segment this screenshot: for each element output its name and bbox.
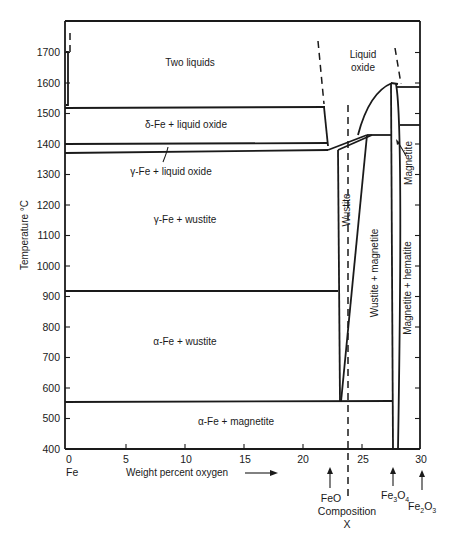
region-wustite: Wustite xyxy=(341,193,352,227)
region-wustite-magnetite: Wustite + magnetite xyxy=(369,228,380,317)
y-tick-1500: 1500 xyxy=(37,107,61,119)
y-tick-1100: 1100 xyxy=(37,229,60,241)
x-axis-title: Weight percent oxygen xyxy=(126,467,228,478)
y-tick-1400: 1400 xyxy=(37,138,61,150)
x-tick-20: 20 xyxy=(297,453,309,465)
x-axis-arrow-icon xyxy=(245,470,278,476)
y-axis-tick-labels: 400 500 600 700 800 900 1000 1100 1200 1… xyxy=(37,46,61,455)
arrow-up-icon xyxy=(327,467,333,474)
y-tick-800: 800 xyxy=(42,321,60,333)
x-tick-0: 0 xyxy=(66,453,72,465)
composition-x-label: X xyxy=(343,518,350,530)
plot-frame xyxy=(65,21,420,449)
y-axis-title: Temperature °C xyxy=(19,200,30,270)
region-alpha-fe-wustite: α-Fe + wustite xyxy=(153,336,217,347)
y-tick-700: 700 xyxy=(42,351,60,363)
y-tick-1600: 1600 xyxy=(37,77,61,89)
region-liquid-oxide-line2: oxide xyxy=(351,62,375,73)
x-tick-10: 10 xyxy=(180,453,192,465)
x-tick-25: 25 xyxy=(357,453,369,465)
region-gamma-fe-liquid-oxide: γ-Fe + liquid oxide xyxy=(130,166,212,177)
arrow-up-icon xyxy=(390,467,396,474)
gamma-fe-pointer xyxy=(163,147,168,162)
region-two-liquids: Two liquids xyxy=(165,57,214,68)
region-alpha-fe-magnetite: α-Fe + magnetite xyxy=(198,416,275,427)
x-tick-15: 15 xyxy=(239,453,251,465)
region-magnetite: Magnetite xyxy=(403,141,414,185)
fe3o4-label: Fe3O4 xyxy=(381,489,409,503)
y-tick-400: 400 xyxy=(42,443,60,455)
x-origin-label-fe: Fe xyxy=(66,466,78,478)
feo-label: FeO xyxy=(321,492,341,504)
marker-fe2o3: Fe2O3 xyxy=(408,470,436,514)
y-tick-600: 600 xyxy=(42,382,60,394)
composition-label: Composition xyxy=(318,505,377,517)
region-magnetite-hematite: Magnetite + hematite xyxy=(402,241,413,335)
x-axis-tick-labels: 0 5 10 15 20 25 30 xyxy=(66,453,427,465)
y-tick-1300: 1300 xyxy=(37,168,61,180)
region-delta-fe-liquid-oxide: δ-Fe + liquid oxide xyxy=(145,119,227,130)
fe-o-phase-diagram: 400 500 600 700 800 900 1000 1100 1200 1… xyxy=(0,0,454,544)
marker-feo: FeO xyxy=(321,467,341,504)
y-tick-900: 900 xyxy=(42,290,60,302)
arrow-up-icon xyxy=(419,470,425,477)
x-tick-5: 5 xyxy=(123,453,129,465)
x-tick-30: 30 xyxy=(415,453,427,465)
fe2o3-label: Fe2O3 xyxy=(408,500,436,514)
marker-fe3o4: Fe3O4 xyxy=(381,467,409,503)
y-tick-1700: 1700 xyxy=(37,46,61,58)
y-tick-500: 500 xyxy=(42,412,60,424)
region-gamma-fe-wustite: γ-Fe + wustite xyxy=(154,214,217,225)
region-liquid-oxide-line1: Liquid xyxy=(350,49,377,60)
phase-boundaries xyxy=(65,33,420,449)
y-tick-1000: 1000 xyxy=(37,260,61,272)
y-tick-1200: 1200 xyxy=(37,199,61,211)
